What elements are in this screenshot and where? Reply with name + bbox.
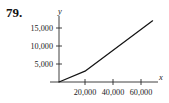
- graph-plot: 15,000 10,000 5,000 20,000 40,000 60,000…: [0, 0, 169, 103]
- x-tick-label-40000: 40,000: [102, 88, 125, 97]
- y-tick-label-5000: 5,000: [35, 60, 53, 69]
- y-tick-label-10000: 10,000: [30, 42, 53, 51]
- x-axis-name-label: x: [158, 72, 163, 82]
- x-tick-label-60000: 60,000: [130, 88, 153, 97]
- data-series-line: [59, 21, 153, 82]
- y-axis-name-label: y: [57, 6, 62, 16]
- x-tick-label-20000: 20,000: [74, 88, 97, 97]
- figure-container: 79. 15,000 10,000 5,000 20,000 40,000 60…: [0, 0, 169, 103]
- y-tick-label-15000: 15,000: [30, 24, 53, 33]
